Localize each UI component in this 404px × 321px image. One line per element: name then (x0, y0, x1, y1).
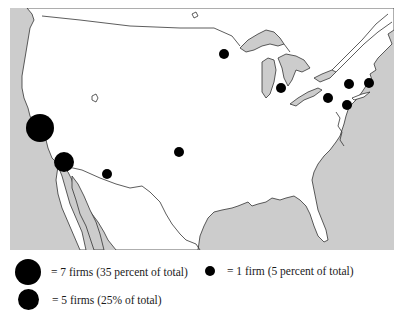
medium-circle-icon (18, 289, 39, 310)
us-map (10, 8, 394, 250)
firm-marker-sf-bay-area (26, 114, 54, 142)
legend-item-5-firms: = 5 firms (25% of total) (18, 289, 162, 310)
firm-marker-central (174, 147, 184, 157)
firm-marker-los-angeles (54, 152, 74, 172)
firm-marker-chicago (276, 83, 286, 93)
firm-marker-minneapolis (219, 49, 229, 59)
firm-marker-pittsburgh (323, 93, 333, 103)
small-circle-icon (205, 266, 215, 276)
legend-item-7-firms: = 7 firms (35 percent of total) (15, 259, 188, 285)
legend-label: = 5 firms (25% of total) (52, 294, 162, 306)
firm-marker-phoenix (102, 169, 112, 179)
legend: = 7 firms (35 percent of total) = 1 firm… (0, 252, 404, 321)
firm-marker-new-york-upstate (344, 79, 354, 89)
legend-label: = 7 firms (35 percent of total) (51, 266, 188, 278)
large-circle-icon (15, 259, 41, 285)
legend-label: = 1 firm (5 percent of total) (227, 265, 354, 277)
firm-marker-new-jersey (342, 100, 352, 110)
firm-marker-boston (364, 78, 374, 88)
legend-item-1-firm: = 1 firm (5 percent of total) (205, 265, 354, 277)
